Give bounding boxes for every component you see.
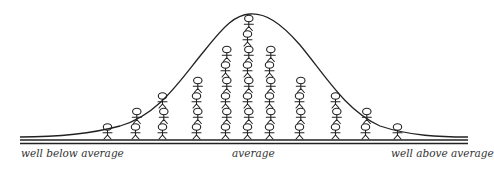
stick-figure-icon [244,77,253,92]
stick-figure-icon [265,93,274,108]
label-well-above-average: well above average [391,147,494,159]
stick-figure-icon [296,108,305,123]
stick-figure-icon [266,108,275,123]
stick-figure-icon [266,46,275,61]
stick-figure-icon [265,124,274,139]
stick-figures [103,15,402,139]
stick-figure-icon [158,124,167,139]
stick-figure-icon [192,93,201,108]
stick-figure-icon [295,124,304,139]
stick-figure-icon [159,108,168,123]
label-well-below-average: well below average [21,147,124,159]
stick-figure-icon [243,31,252,46]
stick-figure-icon [244,15,253,30]
stick-figure-icon [193,77,202,92]
stick-figure-icon [158,93,167,108]
stick-figure-icon [266,77,275,92]
stick-figure-icon [332,108,341,123]
stick-figure-icon [244,46,253,61]
stick-figure-icon [221,93,230,108]
stick-figure-icon [331,124,340,139]
stick-figure-icon [244,108,253,123]
stick-figure-icon [296,77,305,92]
label-average: average [232,147,275,159]
stick-figure-icon [361,124,370,139]
stick-figure-icon [192,124,201,139]
stick-figure-icon [221,124,230,139]
baseline [20,140,468,144]
stick-figure-icon [131,124,140,139]
stick-figure-icon [331,93,340,108]
stick-figure-icon [222,77,231,92]
stick-figure-icon [243,124,252,139]
stick-figure-icon [222,108,231,123]
stick-figure-icon [295,93,304,108]
stick-figure-icon [193,108,202,123]
stick-figure-icon [221,62,230,77]
stick-figure-icon [265,62,274,77]
stick-figure-icon [243,93,252,108]
stick-figure-icon [103,124,112,139]
stick-figure-icon [222,46,231,61]
stick-figure-icon [243,62,252,77]
